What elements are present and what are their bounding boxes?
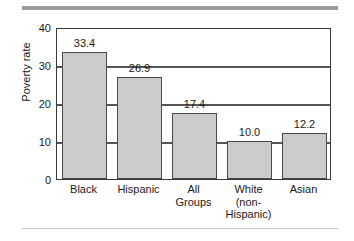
bar[interactable] [172,113,217,179]
bar-group: 33.4 [62,29,107,179]
bar[interactable] [227,141,272,179]
bar[interactable] [117,77,162,179]
plot-area: 33.426.917.410.012.2 [56,28,331,180]
bar-value-label: 17.4 [184,99,205,110]
bar-value-label: 26.9 [129,63,150,74]
x-axis-label-white-non-hispanic: White(non-Hispanic) [221,183,276,221]
top-divider-rule [22,6,338,10]
y-tick-label-0: 0 [10,175,56,186]
bottom-divider-rule [22,228,338,229]
x-axis-label-hispanic: Hispanic [111,183,166,196]
bar-value-label: 10.0 [239,127,260,138]
y-tick-label-30: 30 [10,61,56,72]
y-tick-label-40: 40 [10,23,56,34]
y-axis-tick-labels: 403020100 [0,28,56,180]
bar-group: 10.0 [227,29,272,179]
bar-group: 26.9 [117,29,162,179]
bar[interactable] [282,133,327,179]
y-tick-label-10: 10 [10,137,56,148]
x-axis-label-asian: Asian [276,183,331,196]
figure-container: Poverty rate 403020100 33.426.917.410.01… [0,0,354,241]
x-axis-label-black: Black [56,183,111,196]
bar-value-label: 12.2 [294,119,315,130]
bar-group: 17.4 [172,29,217,179]
bar[interactable] [62,52,107,179]
x-axis-label-all-groups: AllGroups [166,183,221,208]
y-tick-label-20: 20 [10,99,56,110]
bar-value-label: 33.4 [74,38,95,49]
bar-group: 12.2 [282,29,327,179]
